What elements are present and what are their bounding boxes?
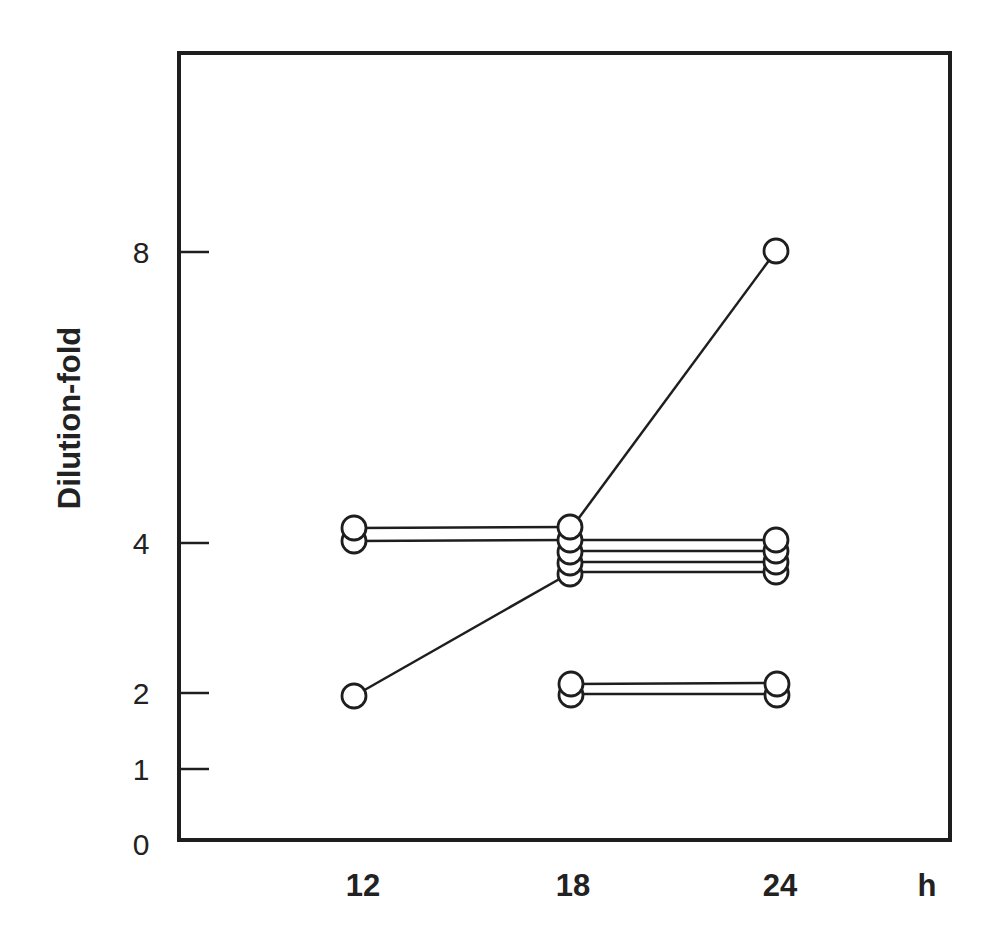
plot-frame (179, 53, 950, 840)
marker-12h-4b (342, 516, 366, 540)
series-lines (354, 251, 776, 696)
marker-24h-4a (764, 528, 788, 552)
y-ticks (181, 252, 209, 769)
marker-18h-4a (558, 515, 582, 539)
x-tick-label-24: 24 (763, 868, 798, 903)
y-tick-label-2: 2 (133, 677, 150, 710)
marker-18h-2a (559, 672, 583, 696)
y-tick-label-0: 0 (133, 828, 150, 861)
x-axis-unit: h (918, 868, 937, 903)
marker-24h-2a (765, 672, 789, 696)
y-tick-label-4: 4 (133, 527, 150, 560)
marker-12h-2 (342, 684, 366, 708)
marker-24h-8 (764, 239, 788, 263)
x-tick-label-12: 12 (346, 868, 380, 903)
chart: 8 4 2 1 0 Dilution-fold 12 18 24 h (0, 0, 995, 937)
data-markers (342, 239, 789, 708)
y-tick-label-1: 1 (133, 753, 150, 786)
y-axis-title: Dilution-fold (52, 327, 87, 510)
x-tick-label-18: 18 (556, 868, 590, 903)
y-tick-label-8: 8 (133, 236, 150, 269)
